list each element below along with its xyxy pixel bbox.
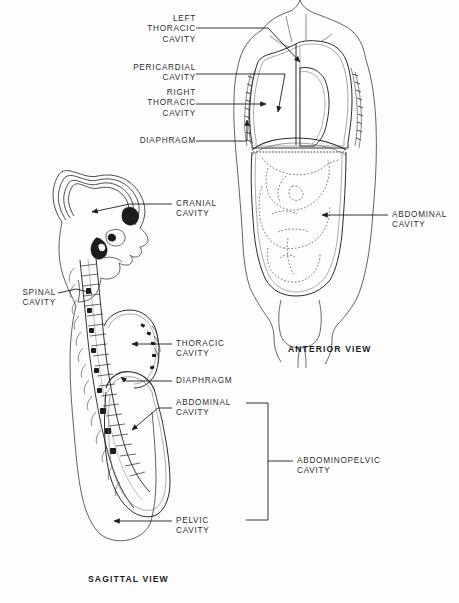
label-abdominal-cavity-sagittal: ABDOMINAL CAVITY xyxy=(176,398,246,419)
label-pericardial-cavity: PERICARDIAL CAVITY xyxy=(118,63,196,84)
diagram-canvas: LEFT THORACIC CAVITY PERICARDIAL CAVITY … xyxy=(0,0,459,603)
label-pelvic-cavity: PELVIC CAVITY xyxy=(176,516,242,537)
abdominopelvic-bracket xyxy=(246,403,293,520)
label-cranial-cavity: CRANIAL CAVITY xyxy=(176,199,246,220)
label-diaphragm-sagittal: DIAPHRAGM xyxy=(176,376,250,386)
sagittal-vertebral-column xyxy=(69,258,150,508)
anterior-abdominal-cavity xyxy=(251,152,346,296)
caption-anterior-view: ANTERIOR VIEW xyxy=(288,344,372,354)
label-spinal-cavity: SPINAL CAVITY xyxy=(0,288,56,309)
label-right-thoracic-cavity: RIGHT THORACIC CAVITY xyxy=(118,88,196,119)
sagittal-abdominopelvic-cavity xyxy=(105,392,171,517)
caption-sagittal-view: SAGITTAL VIEW xyxy=(88,574,169,584)
anterior-pelvis-genitalia xyxy=(279,300,322,368)
anatomy-linework xyxy=(0,0,459,603)
label-diaphragm-anterior: DIAPHRAGM xyxy=(118,136,196,146)
label-abdominal-cavity-anterior: ABDOMINAL CAVITY xyxy=(392,210,458,231)
sagittal-thoracic-cavity xyxy=(104,310,160,388)
anterior-abdominal-organs xyxy=(259,158,340,282)
label-thoracic-cavity-sagittal: THORACIC CAVITY xyxy=(176,339,246,360)
label-left-thoracic-cavity: LEFT THORACIC CAVITY xyxy=(118,14,196,45)
label-abdominopelvic-cavity: ABDOMINOPELVIC CAVITY xyxy=(297,456,397,477)
sagittal-cranial-nasal-structures xyxy=(91,207,139,262)
